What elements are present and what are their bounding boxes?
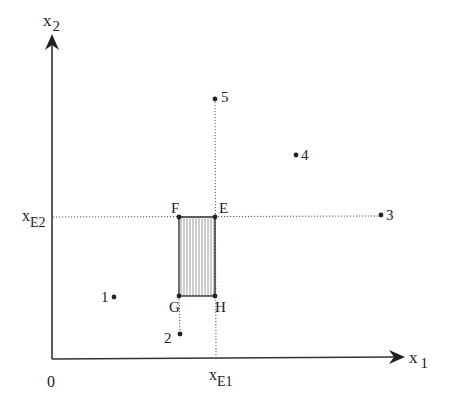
x2-axis xyxy=(45,34,59,359)
point-4-label: 4 xyxy=(301,147,309,163)
point-3-dot xyxy=(379,213,384,218)
corner-H-label: H xyxy=(215,299,226,315)
xE2-label: xE2 xyxy=(22,207,46,230)
point-5-dot xyxy=(213,97,218,102)
corner-F-label: F xyxy=(171,200,179,216)
point-5-label: 5 xyxy=(221,89,229,105)
point-4-dot xyxy=(294,153,299,158)
corner-E-label: E xyxy=(219,200,228,216)
origin-label: 0 xyxy=(47,373,55,390)
xE1-label: xE1 xyxy=(209,366,233,389)
corner-G-label: G xyxy=(169,299,180,315)
point-2-dot xyxy=(178,332,183,337)
diagram-canvas: x2 x1 0 xE1 xE2 F E G H 1 2 3 4 5 xyxy=(0,0,451,401)
corner-G-dot xyxy=(177,294,182,299)
point-2-label: 2 xyxy=(164,330,172,346)
dotted-guides xyxy=(53,99,381,358)
point-1-label: 1 xyxy=(101,289,109,305)
corner-H-dot xyxy=(213,294,218,299)
point-1-dot xyxy=(112,295,117,300)
x2-axis-label: x2 xyxy=(43,11,60,34)
corner-E-dot xyxy=(213,215,218,220)
x1-axis xyxy=(52,350,405,364)
point-3-label: 3 xyxy=(386,207,394,223)
shaded-rectangle xyxy=(177,215,218,299)
x1-axis-label: x1 xyxy=(409,348,428,371)
